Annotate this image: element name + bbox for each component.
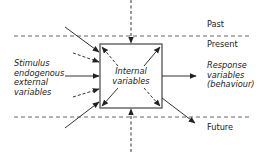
past-label: Past [207,20,224,30]
response-label: Response variables (behaviour) [207,61,255,90]
present-label: Present [207,40,238,50]
stimulus-label: Stimulus endogenous external variables [14,59,64,97]
diagram-canvas: Past Present Future Stimulus endogenous … [0,0,261,152]
internal-variables-label: Internal variables [111,67,151,86]
future-label: Future [207,123,233,133]
